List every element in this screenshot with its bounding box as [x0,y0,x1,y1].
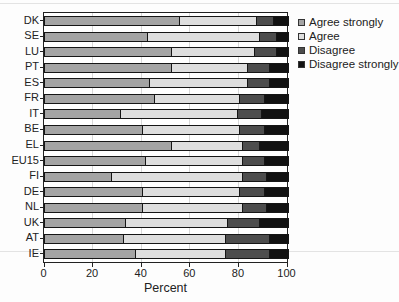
bar-row-el [44,141,289,151]
y-tick [40,207,43,208]
x-tick-label-60: 60 [174,267,204,279]
bar-segment-agree [147,33,259,41]
bar-segment-agree [135,250,225,258]
y-tick [40,36,43,37]
bar-row-pt [44,63,289,73]
bar-segment-agree-strongly [45,126,142,134]
y-axis-label-fr: FR [0,92,39,103]
bar-segment-disagree-strongly [264,188,288,196]
y-axis-label-dk: DK [0,15,39,26]
legend-marker-icon [298,61,305,68]
y-axis-label-de: DE [0,186,39,197]
bar-segment-disagree [242,142,259,150]
y-axis-label-nl: NL [0,201,39,212]
bar-segment-agree [149,79,246,87]
y-axis-label-uk: UK [0,217,39,228]
bar-row-se [44,32,289,42]
bar-segment-disagree-strongly [264,157,288,165]
bar-row-be [44,125,289,135]
bar-segment-disagree-strongly [266,204,288,212]
chart-figure: DKSELUPTESFRITBEELEU15FIDENLUKATIE 02040… [0,0,399,302]
bar-segment-agree-strongly [45,48,171,56]
bar-segment-disagree [225,235,269,243]
bar-segment-agree-strongly [45,188,142,196]
bar-segment-agree-strongly [45,157,145,165]
legend-marker-icon [298,19,305,26]
y-axis-label-lu: LU [0,46,39,57]
bar-segment-disagree [256,17,273,25]
bar-segment-agree-strongly [45,250,135,258]
bar-segment-agree-strongly [45,33,147,41]
y-tick [40,98,43,99]
bar-segment-agree [145,157,242,165]
bar-segment-disagree [242,204,266,212]
bar-segment-agree [154,95,239,103]
bar-segment-disagree-strongly [269,250,288,258]
bar-segment-agree-strongly [45,17,179,25]
y-axis-label-fi: FI [0,170,39,181]
y-tick [40,67,43,68]
bar-segment-agree [111,173,242,181]
y-tick [40,82,43,83]
bar-segment-disagree [247,64,269,72]
x-tick-label-100: 100 [272,267,302,279]
bar-segment-agree [142,204,242,212]
bar-segment-disagree [254,48,276,56]
bar-segment-agree-strongly [45,79,149,87]
bar-row-ie [44,249,289,259]
y-tick [40,238,43,239]
y-tick [40,145,43,146]
bar-row-eu15 [44,156,289,166]
y-axis-label-es: ES [0,77,39,88]
x-axis-title: Percent [44,281,287,295]
y-axis-label-be: BE [0,123,39,134]
legend-label: Disagree [309,44,355,56]
bar-segment-agree [142,188,239,196]
y-axis-label-at: AT [0,232,39,243]
y-tick [40,129,43,130]
bar-segment-disagree-strongly [276,48,288,56]
x-tick-label-40: 40 [126,267,156,279]
bar-segment-disagree-strongly [269,64,288,72]
y-axis-label-pt: PT [0,61,39,72]
bar-row-at [44,234,289,244]
plot-area [43,12,288,263]
bar-segment-disagree [237,110,261,118]
y-axis-label-ie: IE [0,248,39,259]
bar-segment-disagree [225,250,269,258]
bar-segment-disagree-strongly [259,219,288,227]
legend-label: Agree strongly [309,16,383,28]
bar-segment-disagree-strongly [259,142,288,150]
legend-marker-icon [298,33,305,40]
bar-row-fr [44,94,289,104]
legend-label: Agree [309,30,340,42]
bar-segment-disagree-strongly [266,173,288,181]
bar-segment-agree [142,126,239,134]
scan-artifact-line [0,3,399,4]
bar-segment-disagree [239,126,263,134]
bar-segment-disagree [259,33,276,41]
bar-segment-disagree [227,219,259,227]
bar-segment-disagree-strongly [264,126,288,134]
bar-segment-agree-strongly [45,95,154,103]
bar-segment-agree-strongly [45,235,123,243]
bar-row-uk [44,218,289,228]
bar-segment-agree-strongly [45,219,125,227]
bar-segment-disagree [239,188,263,196]
bar-segment-agree [171,142,241,150]
legend-item-disagree: Disagree [298,43,398,57]
bar-segment-disagree-strongly [261,110,288,118]
legend-label: Disagree strongly [309,58,398,70]
bar-row-es [44,78,289,88]
bar-segment-disagree-strongly [269,235,288,243]
bar-segment-disagree-strongly [264,95,288,103]
y-axis-label-it: IT [0,108,39,119]
bar-row-lu [44,47,289,57]
bar-segment-agree-strongly [45,204,142,212]
y-tick [40,176,43,177]
bar-segment-disagree [239,95,263,103]
x-tick-label-20: 20 [77,267,107,279]
y-axis-label-el: EL [0,139,39,150]
bar-row-de [44,187,289,197]
y-tick [40,191,43,192]
